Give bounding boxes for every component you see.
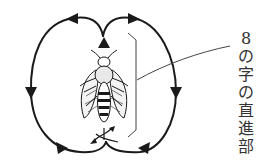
waggle-dance-diagram: 8 の 字 の 直 進 部 [0, 0, 263, 164]
label-char: の [236, 48, 256, 66]
arrow-top-right-icon [128, 13, 140, 24]
arrow-top-left-icon [66, 13, 78, 24]
label-char: 直 [236, 102, 256, 120]
arrow-right-icon [170, 87, 182, 99]
figure-eight-path [0, 0, 263, 164]
arrow-bottom-left-icon [56, 142, 68, 154]
straight-run-label: 8 の 字 の 直 進 部 [236, 30, 256, 156]
label-char: 8 [236, 30, 256, 48]
label-char: の [236, 84, 256, 102]
straight-run-bracket [128, 33, 136, 137]
turn-arrow-right-icon [109, 126, 115, 132]
leader-line [137, 46, 230, 80]
label-char: 進 [236, 120, 256, 138]
arrow-center-up-icon [98, 37, 110, 48]
label-char: 字 [236, 66, 256, 84]
arrow-left-icon [25, 87, 37, 99]
label-char: 部 [236, 138, 256, 156]
bee-icon [80, 50, 128, 122]
